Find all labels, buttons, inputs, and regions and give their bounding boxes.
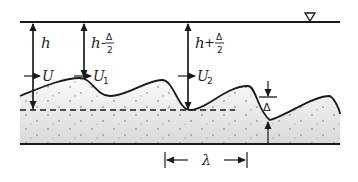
velocity-arrow-U2: U 2 — [178, 68, 213, 86]
svg-text:Δ: Δ — [216, 32, 223, 42]
water-surface-triangle-icon — [305, 13, 315, 21]
svg-text:+: + — [204, 35, 215, 50]
velocity-arrow-U: U — [24, 68, 55, 84]
svg-text:2: 2 — [107, 45, 113, 55]
svg-text:h: h — [41, 34, 51, 52]
svg-text:2: 2 — [207, 76, 213, 86]
svg-text:Δ: Δ — [263, 101, 271, 114]
depth-label-h: h — [41, 34, 51, 52]
svg-text:U: U — [42, 68, 55, 84]
svg-text:λ: λ — [201, 152, 211, 168]
svg-text:2: 2 — [217, 45, 223, 55]
bedform-flow-diagram: h h - Δ 2 h + Δ 2 U U 1 U 2 — [0, 0, 358, 182]
diagram-canvas: h h - Δ 2 h + Δ 2 U U 1 U 2 — [0, 0, 358, 182]
depth-label-h-plus-half-delta: h + Δ 2 — [195, 32, 224, 55]
svg-text:h: h — [91, 34, 101, 52]
svg-text:Δ: Δ — [106, 32, 113, 42]
wavelength-dimension: λ — [165, 152, 247, 168]
depth-label-h-minus-half-delta: h - Δ 2 — [91, 32, 114, 55]
svg-text:1: 1 — [103, 76, 109, 86]
